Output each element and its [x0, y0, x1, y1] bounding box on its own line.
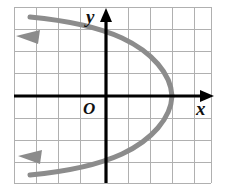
y-axis-arrow: [100, 8, 112, 22]
x-axis: [14, 90, 214, 102]
graph-canvas: y x O: [0, 0, 229, 192]
origin-label: O: [83, 99, 95, 118]
x-axis-label: x: [195, 98, 206, 119]
y-axis-label: y: [84, 6, 95, 27]
curve-arrow-upper: [16, 30, 40, 44]
parabola-figure: y x O: [0, 0, 229, 192]
